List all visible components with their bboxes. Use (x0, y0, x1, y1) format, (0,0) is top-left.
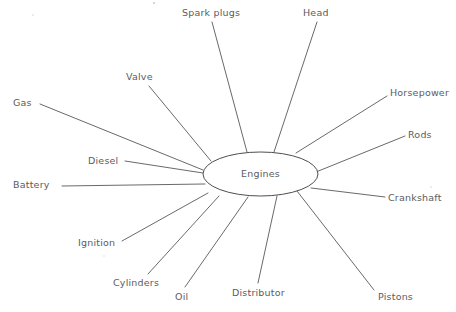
node-label-diesel[interactable]: Diesel (88, 155, 118, 166)
spoke-line-diesel (125, 161, 203, 173)
node-label-oil[interactable]: Oil (175, 291, 188, 302)
node-label-valve[interactable]: Valve (126, 71, 153, 82)
node-label-cylinders[interactable]: Cylinders (113, 277, 159, 288)
node-label-distributor[interactable]: Distributor (232, 287, 285, 298)
node-label-horsepower[interactable]: Horsepower (390, 87, 449, 98)
node-label-gas[interactable]: Gas (13, 97, 32, 108)
node-label-spark-plugs[interactable]: Spark plugs (182, 7, 240, 18)
node-label-head[interactable]: Head (303, 7, 329, 18)
spoke-line-crankshaft (311, 188, 385, 197)
spoke-line-oil (185, 197, 248, 287)
spoke-line-pistons (297, 191, 374, 290)
paper-speck (32, 14, 34, 16)
paper-speck (430, 186, 432, 188)
spoke-line-ignition (122, 193, 208, 241)
spoke-line-distributor (258, 196, 277, 283)
hub-label: Engines (201, 168, 321, 179)
spoke-line-gas (40, 104, 203, 170)
paper-speck (103, 255, 105, 257)
node-label-battery[interactable]: Battery (13, 179, 50, 190)
node-label-rods[interactable]: Rods (408, 129, 432, 140)
node-label-ignition[interactable]: Ignition (78, 237, 115, 248)
concept-map-canvas: Spark plugsHeadValveHorsepowerGasRodsDie… (0, 0, 456, 312)
spoke-line-cylinders (148, 196, 219, 274)
spoke-line-rods (316, 136, 405, 172)
spoke-line-horsepower (296, 96, 387, 153)
spoke-line-battery (62, 184, 205, 186)
node-label-crankshaft[interactable]: Crankshaft (388, 192, 442, 203)
spoke-line-head (274, 22, 317, 152)
paper-speck (153, 2, 155, 4)
spoke-line-valve (149, 86, 211, 161)
concept-map-svg (0, 0, 456, 312)
node-label-pistons[interactable]: Pistons (378, 291, 413, 302)
spoke-line-spark-plugs (212, 22, 247, 152)
